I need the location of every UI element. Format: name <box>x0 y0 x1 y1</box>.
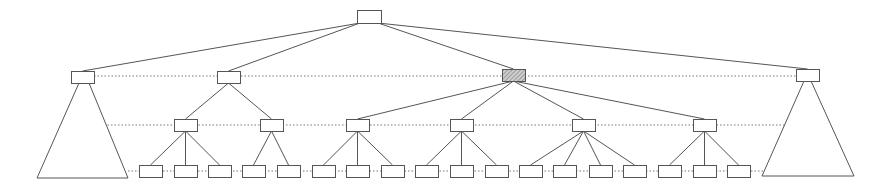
tree-edge <box>462 131 497 165</box>
level-links <box>94 76 796 171</box>
tree-edge <box>705 131 739 165</box>
leaf-node <box>590 166 613 178</box>
tree-edges <box>83 23 808 165</box>
leaf-node <box>554 166 577 178</box>
tree-node <box>573 120 596 132</box>
tree-nodes <box>72 11 820 178</box>
leaf-node <box>140 166 163 178</box>
tree-edge <box>462 81 514 119</box>
collapsed-subtree-triangle <box>762 81 854 176</box>
leaf-node <box>728 166 751 178</box>
tree-node <box>175 120 198 132</box>
tree-edge <box>83 23 361 71</box>
tree-edge <box>229 83 272 119</box>
tree-node <box>797 70 820 82</box>
tree-node <box>347 120 370 132</box>
leaf-node <box>243 166 266 178</box>
tree-edge <box>427 131 462 165</box>
leaf-node <box>659 166 682 178</box>
leaf-node <box>486 166 509 178</box>
leaf-node <box>520 166 543 178</box>
tree-node <box>451 120 474 132</box>
tree-edge <box>229 23 361 71</box>
tree-edge <box>531 131 584 165</box>
tree-edge <box>670 131 705 165</box>
tree-edge <box>186 131 220 165</box>
leaf-node <box>278 166 301 178</box>
collapsed-subtree-triangle <box>37 83 128 178</box>
tree-edge <box>378 23 808 69</box>
tree-node <box>72 72 95 84</box>
tree-edge <box>186 83 229 119</box>
tree-edge <box>151 131 186 165</box>
tree-edge <box>565 131 584 165</box>
tree-edge <box>514 81 705 119</box>
highlighted-node <box>503 70 526 82</box>
tree-edge <box>514 81 584 119</box>
leaf-node <box>209 166 232 178</box>
tree-edge <box>324 131 358 165</box>
leaf-node <box>416 166 439 178</box>
tree-node <box>694 120 717 132</box>
leaf-node <box>313 166 336 178</box>
leaf-node <box>382 166 405 178</box>
leaf-node <box>624 166 647 178</box>
leaf-node <box>347 166 370 178</box>
tree-edge <box>254 131 272 165</box>
tree-edge <box>358 131 393 165</box>
tree-edge <box>272 131 289 165</box>
tree-edge <box>358 81 514 119</box>
leaf-node <box>451 166 474 178</box>
root-node <box>358 11 382 24</box>
leaf-node <box>175 166 198 178</box>
tree-node <box>218 72 241 84</box>
tree-diagram <box>0 0 896 190</box>
tree-edge <box>584 131 635 165</box>
tree-node <box>261 120 284 132</box>
collapsed-subtrees <box>37 81 854 178</box>
leaf-node <box>694 166 717 178</box>
